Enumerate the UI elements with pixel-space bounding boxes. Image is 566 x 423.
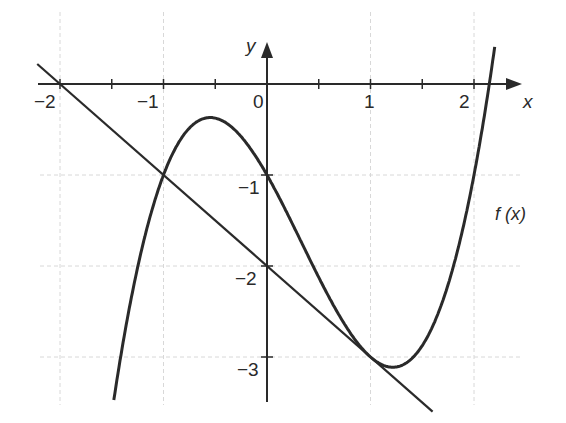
y-tick-label-neg3: −3 (237, 360, 259, 379)
x-tick-label-neg1: −1 (137, 92, 159, 111)
y-tick-label-neg1: −1 (238, 178, 260, 197)
grid-lines (40, 12, 520, 405)
curve-label: f (x) (495, 205, 526, 223)
x-axis-label: x (523, 92, 533, 111)
x-tick-label-2: 2 (459, 92, 470, 111)
axes (38, 42, 522, 402)
y-tick-label-neg2: −2 (235, 269, 257, 288)
x-tick-label-neg2: −2 (34, 92, 56, 111)
y-axis-label: y (246, 36, 256, 55)
function-plot (0, 0, 566, 423)
x-tick-label-0: 0 (253, 92, 264, 111)
x-tick-label-1: 1 (364, 92, 375, 111)
curve-f-of-x (114, 47, 495, 400)
